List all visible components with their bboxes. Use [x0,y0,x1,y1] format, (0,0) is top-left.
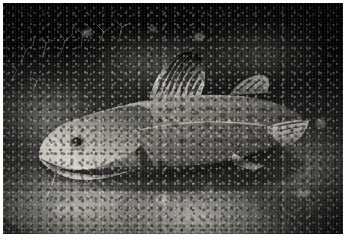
fish-shadow [41,137,305,193]
flank-mottling [146,105,287,148]
flank-highlights [170,115,276,138]
tail-fin [267,120,309,147]
chin-barbel [46,175,55,198]
eye [70,135,87,151]
belly-shadow [47,141,291,179]
film-grain-overlay [3,3,343,234]
anal-fin [231,151,265,169]
lateral-line [135,122,295,133]
seabed-rubble [116,197,321,234]
rocky-outcrop [3,3,343,234]
pectoral-fin [135,145,153,175]
first-dorsal-fin [149,52,205,99]
caudal-peduncle [279,115,313,149]
second-dorsal-fin [229,75,269,95]
branching-hydroids [11,21,130,91]
photograph [3,3,343,234]
seabed-texture-overlay [3,3,343,234]
mottled-flank [39,95,303,170]
seabed-detail [3,3,343,234]
head [39,105,153,170]
gill-cover [131,107,141,157]
atlantic-cod [3,3,343,234]
vignette-overlay [3,3,343,234]
rock-grain-overlay [3,3,343,234]
monochrome-overlay [3,3,343,234]
snout [39,136,59,159]
rock-highlights [53,26,326,214]
lower-jaw [41,161,135,180]
dark-water-column [3,3,343,234]
pelvic-fin [157,161,175,183]
screenshot-canvas [0,0,351,241]
mouth-line [41,159,139,174]
encrusting-algae [3,21,343,234]
